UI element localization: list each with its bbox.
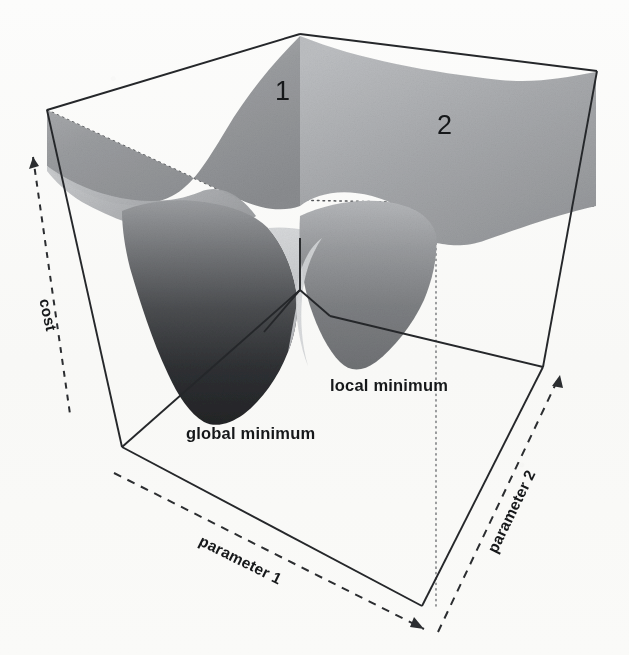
axis-parameter-1-arrow	[114, 473, 424, 629]
axis-parameter-2-arrowhead	[552, 375, 563, 388]
region-label-2: 2	[437, 110, 452, 141]
region-label-1: 1	[275, 76, 290, 107]
callout-local-minimum: local minimum	[330, 376, 448, 395]
axis-cost-arrow	[33, 157, 70, 414]
callout-global-minimum: global minimum	[186, 424, 315, 443]
axis-parameter-2-arrow	[438, 375, 560, 632]
surface-global-minimum-basin	[122, 200, 297, 425]
surface-local-minimum-basin	[299, 201, 436, 370]
cost-surface	[47, 36, 596, 425]
surface-plot-svg	[0, 0, 629, 655]
axis-parameter-1-arrowhead	[410, 617, 424, 629]
surface-region-1	[47, 36, 300, 209]
axis-cost-arrowhead	[29, 157, 39, 169]
cost-surface-figure: 1 2 global minimum local minimum cost pa…	[0, 0, 629, 655]
